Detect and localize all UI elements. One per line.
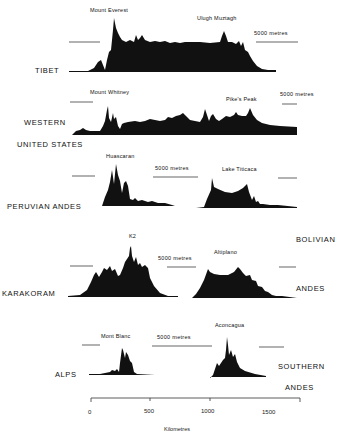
region-label-bolivian-andes: ANDES [296, 284, 325, 293]
region-label-western: WESTERN [24, 118, 66, 127]
peak-label-altiplano: Altiplano [214, 249, 237, 255]
scale-label-alps: 5000 metres [157, 334, 191, 340]
axis-tick-1500: 1500 [262, 409, 275, 415]
axis-tick-500: 500 [144, 408, 154, 414]
axis-tick-0: 0 [88, 409, 91, 415]
peak-label-huascaran: Huascaran [106, 153, 134, 159]
scale-label-karakoram: 5000 metres [158, 255, 192, 261]
region-label-bolivian: BOLIVIAN [296, 235, 335, 244]
peak-label-lake-titicaca: Lake Titicaca [222, 166, 257, 172]
scale-label-tibet: 5000 metres [254, 30, 288, 36]
region-label-southern: SOUTHERN [278, 362, 325, 371]
peak-label-ulugh-muztagh: Ulugh Muztagh [197, 15, 237, 21]
western-us-profile [70, 102, 297, 135]
region-label-southern-andes: ANDES [285, 383, 314, 392]
region-label-united-states: UNITED STATES [17, 140, 83, 149]
alps-profile [82, 337, 284, 378]
distance-axis [91, 398, 300, 402]
peak-label-k2: K2 [129, 233, 136, 239]
peak-label-mont-blanc: Mont Blanc [101, 333, 131, 339]
region-label-karakoram: KARAKORAM [2, 289, 55, 298]
region-label-tibet: TIBET [35, 66, 59, 75]
karakoram-profile [68, 246, 297, 298]
axis-label: Kilometres [164, 426, 190, 432]
axis-tick-1000: 1000 [201, 408, 214, 414]
peak-label-aconcagua: Aconcagua [215, 322, 244, 328]
peak-label-everest: Mount Everest [90, 7, 128, 13]
peak-label-whitney: Mount Whitney [90, 89, 129, 95]
scale-label-peru: 5000 metres [155, 165, 189, 171]
region-label-alps: ALPS [55, 370, 77, 379]
scale-label-western-us: 5000 metres [280, 91, 314, 97]
peak-label-pikes-peak: Pike's Peak [226, 96, 257, 102]
tibet-profile [69, 18, 298, 72]
region-label-peruvian-andes: PERUVIAN ANDES [7, 202, 81, 211]
